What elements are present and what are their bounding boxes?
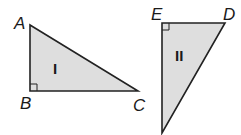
triangle-2: E D II	[151, 5, 235, 133]
triangle-numeral-1: I	[53, 60, 57, 77]
vertex-label-b: B	[20, 94, 31, 113]
vertex-label-a: A	[13, 14, 25, 33]
triangle-numeral-2: II	[175, 47, 183, 64]
vertex-label-c: C	[133, 96, 146, 115]
triangle-1: A B C I	[13, 14, 146, 115]
vertex-label-d: D	[223, 5, 235, 24]
triangle-edf	[162, 23, 225, 133]
triangle-abc	[30, 25, 138, 91]
right-triangles-diagram: A B C I E D II	[0, 0, 241, 135]
vertex-label-e: E	[151, 5, 163, 24]
